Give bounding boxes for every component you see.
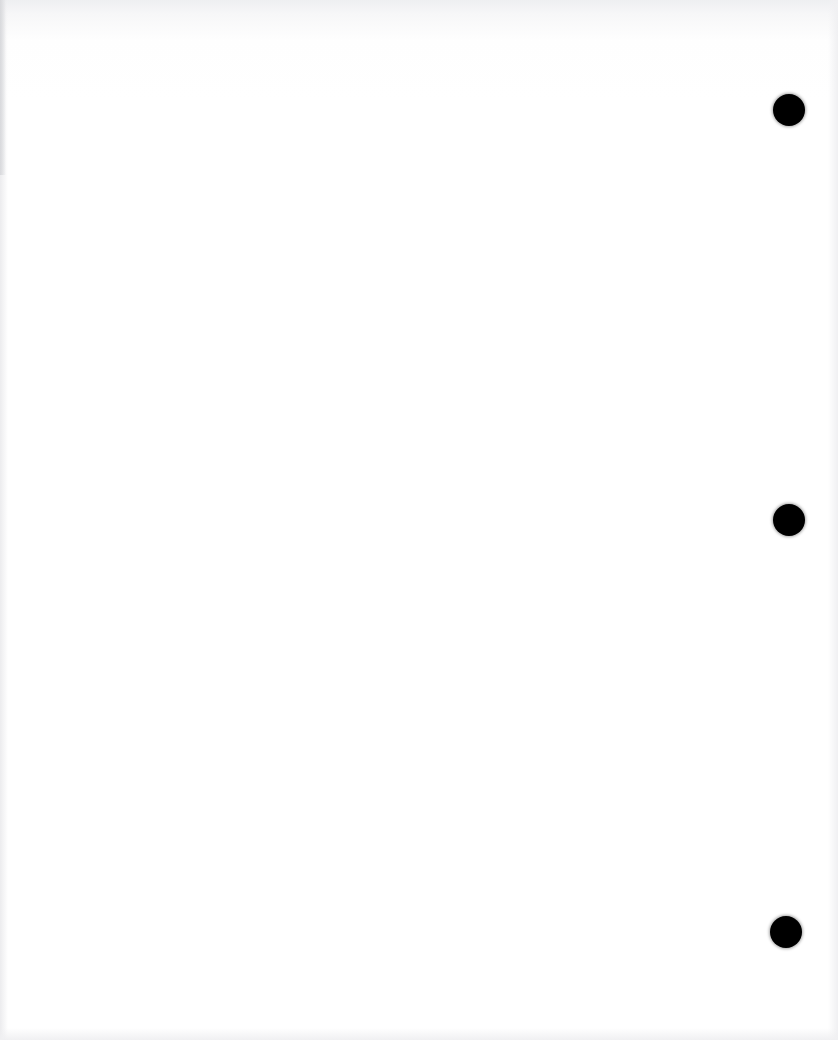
scanned-page xyxy=(0,0,838,1040)
punch-hole-top xyxy=(773,94,805,126)
punch-hole-middle xyxy=(773,504,805,536)
page-right-edge xyxy=(828,0,838,1040)
page-left-shadow xyxy=(0,0,6,175)
page-bottom-edge xyxy=(0,1028,838,1040)
punch-hole-bottom xyxy=(770,916,802,948)
